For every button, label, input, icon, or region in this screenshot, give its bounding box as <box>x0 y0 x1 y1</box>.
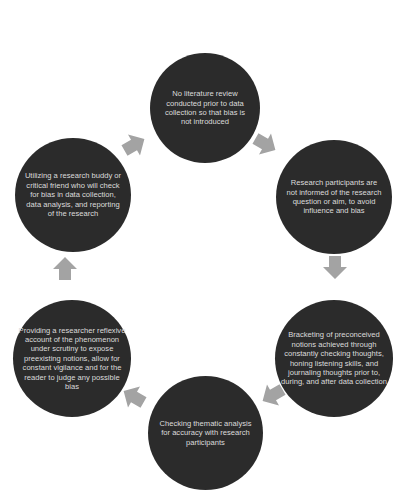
node-text: Checking thematic analysis for accuracy … <box>148 419 263 447</box>
node-text: No literature review conducted prior to … <box>150 89 260 127</box>
node-text: Bracketing of preconceived notions achie… <box>275 330 393 386</box>
node-text: Providing a researcher reflexive account… <box>13 326 131 392</box>
cycle-node-left-bottom: Providing a researcher reflexive account… <box>13 300 131 417</box>
cycle-node-right-bottom: Bracketing of preconceived notions achie… <box>275 300 393 417</box>
node-text: Research participants are not informed o… <box>276 178 392 216</box>
cycle-node-left-top: Utilizing a research buddy or critical f… <box>15 138 131 252</box>
arrow-up-icon <box>52 256 78 282</box>
cycle-node-bottom: Checking thematic analysis for accuracy … <box>148 376 263 490</box>
node-text: Utilizing a research buddy or critical f… <box>15 171 131 218</box>
arrow-up-right-icon <box>116 127 152 163</box>
arrow-down-icon <box>322 254 348 280</box>
cycle-node-top: No literature review conducted prior to … <box>150 53 260 163</box>
cycle-node-right-top: Research participants are not informed o… <box>276 140 392 254</box>
